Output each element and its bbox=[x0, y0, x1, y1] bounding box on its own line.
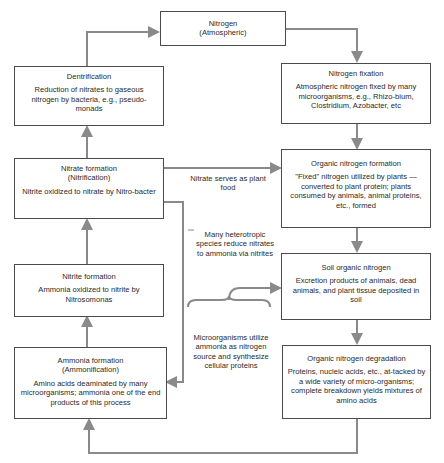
node-title: Organic nitrogen formation bbox=[286, 159, 426, 168]
node-title: Ammonia formation bbox=[19, 356, 162, 365]
edge-label-microorganisms: Microorganisms utilize ammonia as nitrog… bbox=[186, 333, 276, 371]
node-body: Reduction of nitrates to gaseous nitroge… bbox=[19, 85, 159, 113]
node-body: Amino acids deaminated by many microorga… bbox=[19, 379, 162, 407]
node-body: Atmospheric nitrogen fixed by many micro… bbox=[286, 82, 426, 110]
node-body: Nitrite oxidized to nitrate by Nitro-bac… bbox=[19, 187, 159, 196]
node-title: Nitrate formation bbox=[19, 164, 159, 173]
node-nitrite-formation: Nitrite formation Ammonia oxidized to ni… bbox=[14, 264, 164, 317]
node-title: Soil organic nitrogen bbox=[286, 263, 426, 272]
node-title: Organic nitrogen degradation bbox=[287, 354, 426, 363]
node-title: Nitrogen bbox=[165, 19, 281, 28]
node-title: Nitrite formation bbox=[19, 272, 159, 281]
node-title: Nitrogen fixation bbox=[286, 69, 426, 78]
node-atmospheric-nitrogen: Nitrogen (Atmospheric) bbox=[160, 11, 286, 46]
node-ammonia-formation: Ammonia formation (Ammonification) Amino… bbox=[14, 347, 167, 419]
node-soil-organic-nitrogen: Soil organic nitrogen Excretion products… bbox=[281, 253, 431, 320]
node-subtitle: (Atmospheric) bbox=[165, 28, 281, 37]
node-body: Proteins, nucleic acids, etc., at-tacked… bbox=[287, 367, 426, 405]
node-nitrate-formation: Nitrate formation (Nitrification) Nitrit… bbox=[14, 158, 164, 219]
node-organic-nitrogen-formation: Organic nitrogen formation "Fixed" nitro… bbox=[281, 149, 431, 228]
node-subtitle: (Nitrification) bbox=[19, 173, 159, 182]
node-denitrification: Dentrification Reduction of nitrates to … bbox=[14, 66, 164, 126]
node-organic-nitrogen-degradation: Organic nitrogen degradation Proteins, n… bbox=[282, 345, 431, 419]
node-subtitle: (Ammonification) bbox=[19, 365, 162, 374]
node-body: Ammonia oxidized to nitrite by Nitrosomo… bbox=[19, 285, 159, 304]
node-body: "Fixed" nitrogen utilized by plants —con… bbox=[286, 172, 426, 210]
node-nitrogen-fixation: Nitrogen fixation Atmospheric nitrogen f… bbox=[281, 63, 431, 124]
edge-label-heterotropic: Many heterotropic species reduce nitrate… bbox=[194, 230, 276, 258]
node-title: Dentrification bbox=[19, 72, 159, 81]
edge-label-plant-food: Nitrate serves as plant food bbox=[188, 174, 268, 193]
node-body: Excretion products of animals, dead anim… bbox=[286, 276, 426, 304]
